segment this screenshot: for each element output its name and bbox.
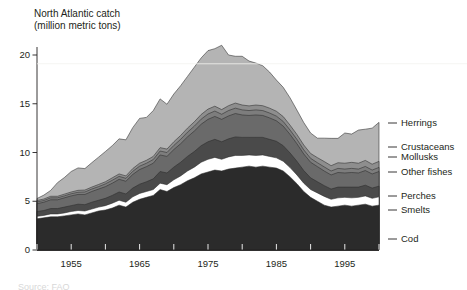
chart-figure: North Atlantic catch (million metric ton… <box>0 0 467 290</box>
y-axis-tick-label: 0 <box>10 244 30 255</box>
legend-label-smelts: Smelts <box>401 204 430 215</box>
legend-connector-group <box>388 123 397 239</box>
x-axis-tick-label: 1965 <box>120 258 160 269</box>
legend-label-cod: Cod <box>401 233 418 244</box>
x-axis-tick-label: 1975 <box>188 258 228 269</box>
y-axis-tick-label: 15 <box>10 98 30 109</box>
x-axis-tick-label: 1955 <box>51 258 91 269</box>
stacked-area-plot <box>0 0 467 290</box>
legend-label-mollusks: Mollusks <box>401 151 438 162</box>
y-axis-tick-label: 10 <box>10 147 30 158</box>
y-axis-tick-label: 20 <box>10 49 30 60</box>
legend-label-other-fishes: Other fishes <box>401 166 452 177</box>
x-axis-tick-label: 1995 <box>325 258 365 269</box>
x-axis-tick-label: 1985 <box>256 258 296 269</box>
cropped-footer-text: Source: FAO <box>18 282 70 290</box>
legend-label-perches: Perches <box>401 190 436 201</box>
legend-label-herrings: Herrings <box>401 117 437 128</box>
y-axis-tick-label: 5 <box>10 195 30 206</box>
area-series-group <box>37 45 379 250</box>
